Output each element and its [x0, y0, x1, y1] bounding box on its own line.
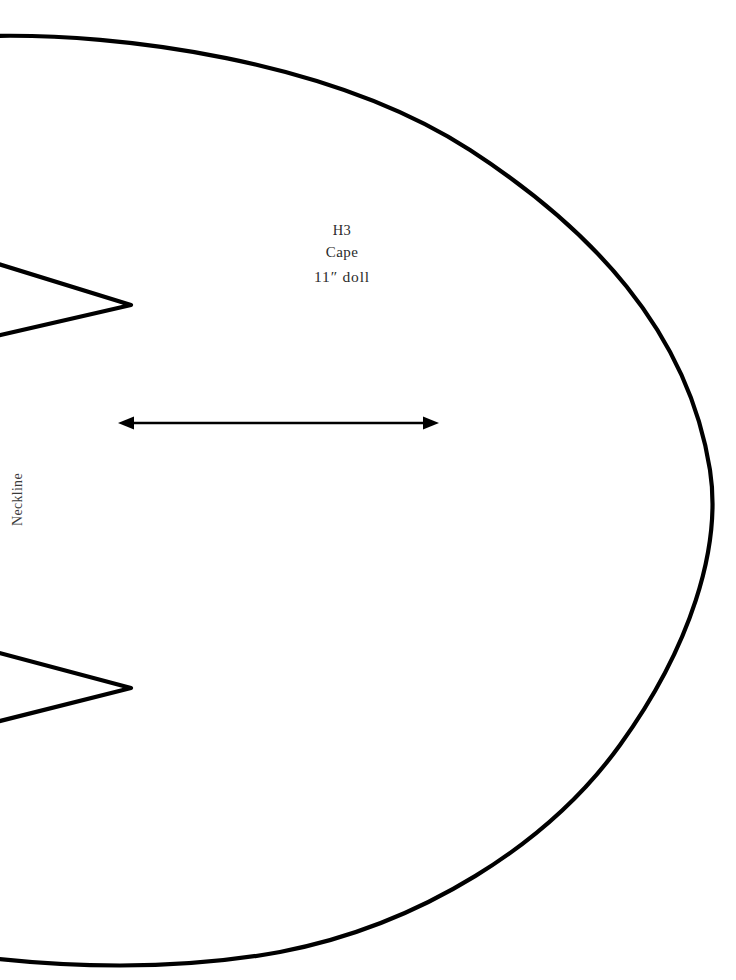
pattern-code: H3: [242, 219, 442, 241]
grainline-arrow: [118, 417, 439, 430]
pattern-name: Cape: [242, 241, 442, 264]
upper-dart-notch: [0, 262, 131, 337]
cape-cutting-line: [0, 36, 712, 966]
neckline-edge-label: Neckline: [10, 416, 26, 526]
lower-dart-notch: [0, 651, 131, 723]
pattern-outline-svg: [0, 0, 736, 980]
pattern-size: 11″ doll: [242, 265, 442, 289]
pattern-label-block: H3 Cape 11″ doll: [242, 219, 442, 289]
pattern-sheet: H3 Cape 11″ doll Neckline: [0, 0, 736, 980]
